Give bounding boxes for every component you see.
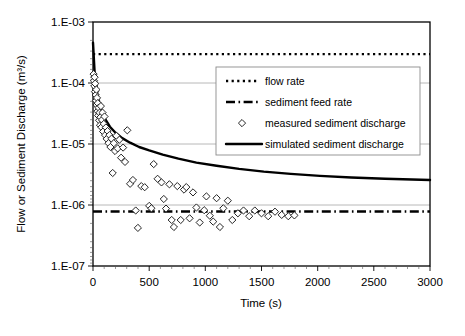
scatter-marker	[265, 213, 272, 220]
scatter-marker	[174, 183, 181, 190]
x-axis-tick-labels: 0 500 1000 1500 2000 2500 3000	[90, 276, 443, 288]
scatter-marker	[224, 197, 231, 204]
scatter-marker	[132, 207, 139, 214]
xtick-label-5: 2500	[361, 276, 387, 288]
ytick-label-2: 1.E-05	[51, 138, 85, 150]
xtick-label-2: 1000	[193, 276, 219, 288]
scatter-marker	[177, 216, 184, 223]
legend-label-simulated-sediment-discharge: simulated sediment discharge	[265, 138, 404, 150]
scatter-marker	[160, 195, 167, 202]
scatter-marker	[216, 223, 223, 230]
scatter-marker	[278, 211, 285, 218]
chart-legend: flow rate sediment feed rate measured se…	[216, 67, 420, 155]
scatter-marker	[134, 224, 141, 231]
xtick-label-4: 2000	[305, 276, 331, 288]
scatter-marker	[196, 219, 203, 226]
scatter-marker	[246, 213, 253, 220]
scatter-marker	[150, 161, 157, 168]
y-axis-tick-labels: 1.E-03 1.E-04 1.E-05 1.E-06 1.E-07	[51, 16, 85, 272]
scatter-marker	[170, 223, 177, 230]
ytick-label-1: 1.E-04	[51, 77, 85, 89]
ytick-label-4: 1.E-07	[51, 260, 85, 272]
scatter-marker	[285, 213, 292, 220]
scatter-marker	[251, 207, 258, 214]
y-axis-ticks	[88, 22, 93, 266]
y-axis-title: Flow or Sediment Discharge (m³/s)	[15, 55, 27, 233]
scatter-marker	[109, 169, 116, 176]
ytick-label-3: 1.E-06	[51, 199, 85, 211]
scatter-marker	[291, 212, 298, 219]
scatter-marker	[168, 216, 175, 223]
chart-figure: 1.E-03 1.E-04 1.E-05 1.E-06 1.E-07 0 500…	[0, 0, 465, 336]
scatter-marker	[120, 144, 127, 151]
scatter-marker	[229, 216, 236, 223]
xtick-label-1: 500	[140, 276, 159, 288]
scatter-marker	[189, 189, 196, 196]
scatter-marker	[124, 127, 131, 134]
legend-label-measured-sediment-discharge: measured sediment discharge	[265, 117, 406, 129]
scatter-marker	[203, 193, 210, 200]
legend-label-sediment-feed-rate: sediment feed rate	[265, 96, 352, 108]
scatter-marker	[271, 208, 278, 215]
xtick-label-3: 1500	[249, 276, 275, 288]
xtick-label-6: 3000	[417, 276, 443, 288]
ytick-label-0: 1.E-03	[51, 16, 85, 28]
xtick-label-0: 0	[90, 276, 96, 288]
chart-plot-area: 1.E-03 1.E-04 1.E-05 1.E-06 1.E-07 0 500…	[0, 0, 465, 336]
scatter-marker	[166, 181, 173, 188]
scatter-marker	[186, 215, 193, 222]
legend-label-flow-rate: flow rate	[265, 75, 305, 87]
x-axis-ticks	[93, 266, 430, 271]
scatter-marker	[213, 195, 220, 202]
x-axis-title: Time (s)	[240, 297, 282, 309]
